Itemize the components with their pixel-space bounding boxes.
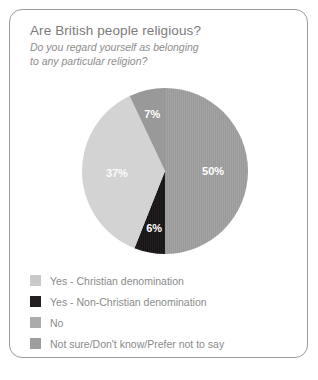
chart-legend: Yes - Christian denomination Yes - Non-C…	[30, 272, 290, 356]
pie-slice-label: 6%	[146, 222, 162, 234]
legend-item-label: Yes - Christian denomination	[50, 275, 184, 287]
legend-swatch	[30, 275, 41, 286]
legend-item-label: Not sure/Don't know/Prefer not to say	[50, 338, 224, 350]
pie-chart: 50%6%37%7%	[73, 79, 257, 263]
chart-subtitle-line-1: Do you regard yourself as belonging	[30, 41, 280, 55]
list-item: Yes - Non-Christian denomination	[30, 293, 290, 310]
legend-swatch	[30, 338, 41, 349]
pie-slice-label: 37%	[106, 167, 128, 179]
chart-card: Are British people religious? Do you reg…	[9, 9, 308, 358]
list-item: No	[30, 314, 290, 331]
pie-chart-svg: 50%6%37%7%	[73, 79, 257, 263]
pie-slice-label: 50%	[202, 165, 224, 177]
legend-item-label: No	[50, 317, 63, 329]
chart-subtitle: Do you regard yourself as belonging to a…	[30, 41, 280, 68]
list-item: Yes - Christian denomination	[30, 272, 290, 289]
list-item: Not sure/Don't know/Prefer not to say	[30, 335, 290, 352]
legend-item-label: Yes - Non-Christian denomination	[50, 296, 207, 308]
pie-slice-label: 7%	[144, 108, 160, 120]
chart-subtitle-line-2: to any particular religion?	[30, 55, 280, 69]
page-title: Are British people religious?	[30, 23, 201, 38]
legend-swatch	[30, 317, 41, 328]
legend-swatch	[30, 296, 41, 307]
